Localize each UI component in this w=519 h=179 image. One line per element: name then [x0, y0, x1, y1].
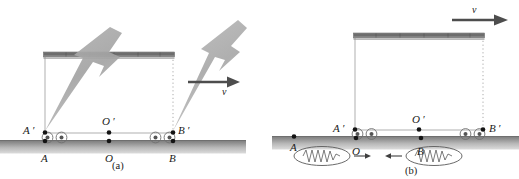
point-O-a — [107, 139, 112, 144]
wheel-inner — [154, 136, 158, 140]
wheel-inner — [478, 132, 482, 136]
physics-figure-relativity-train: A ′ O ′ B ′ A O B v (a) A ′ O ′ B ′ A O … — [0, 0, 519, 179]
label-velocity-a: v — [222, 87, 226, 97]
points-primed-b — [353, 127, 486, 132]
caption-a: (a) — [112, 161, 124, 172]
figure-canvas — [0, 0, 519, 179]
wheel-inner — [370, 132, 374, 136]
wheel-inner — [60, 136, 64, 140]
label-A-prime-a: A ′ — [23, 125, 34, 136]
label-B-a: B — [169, 153, 176, 164]
label-A-a: A — [41, 153, 48, 164]
wheel-inner — [356, 132, 360, 136]
velocity-arrow-b — [452, 15, 508, 26]
point-B-prime-b — [481, 127, 486, 132]
point-B-a — [171, 139, 176, 144]
panel-a-group — [0, 20, 247, 154]
label-O-prime-a: O ′ — [102, 116, 115, 127]
label-O-prime-b: O ′ — [412, 114, 425, 125]
point-A-prime-a — [43, 130, 48, 135]
wheel-inner — [168, 136, 172, 140]
point-A-b — [292, 134, 297, 139]
label-B-prime-a: B ′ — [178, 125, 189, 136]
point-A-a — [43, 139, 48, 144]
panel-b-group — [272, 15, 519, 166]
label-B-prime-b: B ′ — [489, 123, 500, 134]
label-B-b: B — [417, 146, 424, 157]
point-B-b — [419, 136, 424, 141]
label-O-b: O — [352, 146, 360, 157]
point-O-b — [354, 136, 359, 141]
car-roof-b — [354, 33, 485, 38]
label-A-b: A — [290, 142, 297, 153]
label-velocity-b: v — [472, 5, 476, 15]
ground-strip-a — [0, 141, 246, 154]
point-O-prime-b — [417, 127, 422, 132]
lightning-bolt-right-a — [173, 20, 247, 131]
wheel-inner — [464, 132, 468, 136]
label-A-prime-b: A ′ — [333, 123, 344, 134]
wheel-inner — [46, 136, 50, 140]
caption-b: (b) — [405, 166, 417, 177]
point-A-prime-b — [353, 127, 358, 132]
wave-arrow-left — [385, 153, 402, 159]
point-B-prime-a — [171, 130, 176, 135]
wave-squiggle — [303, 150, 340, 162]
point-O-prime-a — [107, 130, 112, 135]
